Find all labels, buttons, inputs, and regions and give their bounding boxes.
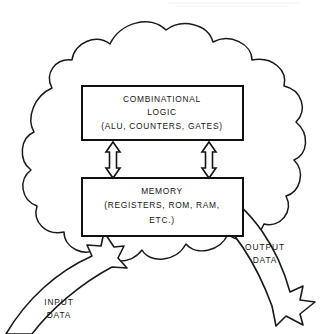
output-data-label-line1: OUTPUT bbox=[245, 242, 285, 252]
output-data-label-line2: DATA bbox=[253, 255, 278, 265]
memory-line3: ETC.) bbox=[149, 215, 174, 225]
input-data-label-line2: DATA bbox=[47, 310, 72, 320]
combinational-logic-line2: LOGIC bbox=[147, 107, 177, 117]
block-diagram-figure: COMBINATIONAL LOGIC (ALU, COUNTERS, GATE… bbox=[0, 0, 323, 334]
combinational-logic-line1: COMBINATIONAL bbox=[123, 94, 201, 104]
combinational-logic-line3: (ALU, COUNTERS, GATES) bbox=[101, 121, 222, 131]
input-data-label-line1: INPUT bbox=[44, 297, 74, 307]
memory-line2: (REGISTERS, ROM, RAM, bbox=[104, 200, 220, 210]
memory-line1: MEMORY bbox=[141, 186, 183, 196]
scan-artifact bbox=[168, 3, 300, 6]
